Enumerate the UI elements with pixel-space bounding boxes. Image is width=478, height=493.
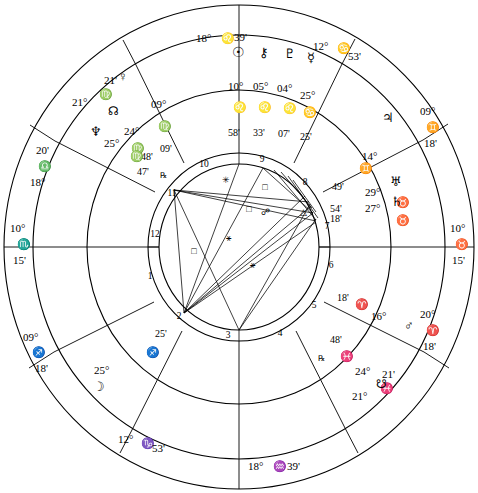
svg-text:♎: ♎ xyxy=(38,160,52,173)
svg-text:05°: 05° xyxy=(253,80,268,92)
svg-text:♍: ♍ xyxy=(130,150,144,163)
svg-text:♐: ♐ xyxy=(32,346,46,359)
svg-text:♊: ♊ xyxy=(426,121,440,134)
svg-text:18': 18' xyxy=(423,340,436,352)
svg-text:10°: 10° xyxy=(10,222,25,234)
svg-text:25°: 25° xyxy=(104,137,119,149)
house-number-11: 11 xyxy=(167,188,176,198)
house-number-4: 4 xyxy=(278,328,283,338)
house-number-3: 3 xyxy=(226,330,231,340)
svg-text:□: □ xyxy=(246,204,252,214)
svg-text:18': 18' xyxy=(35,362,48,374)
svg-text:49': 49' xyxy=(332,181,344,192)
planet-south-node: ☋ 24° ♓ 48' xyxy=(330,334,387,391)
svg-text:21': 21' xyxy=(104,74,117,86)
svg-text:24°: 24° xyxy=(124,125,139,137)
svg-text:21°: 21° xyxy=(72,96,87,108)
planet-moon: ☽ 25° ♐ 25' xyxy=(93,328,167,394)
svg-text:18°: 18° xyxy=(30,176,45,188)
svg-text:25': 25' xyxy=(155,328,167,339)
svg-text:04°: 04° xyxy=(277,82,292,94)
svg-text:09°: 09° xyxy=(151,98,166,110)
planet-chiron: ⚷ 05° ♌ 33' xyxy=(253,45,272,138)
cusp-label-mc: 18° ♌ 39' xyxy=(196,31,247,45)
cusp-label-ic: 18° ♒ 39' xyxy=(248,460,300,473)
svg-text:♌: ♌ xyxy=(233,101,247,114)
svg-text:℞: ℞ xyxy=(160,171,167,180)
svg-text:♉: ♉ xyxy=(396,214,410,227)
planet-mercury: ☿ 25° ♋ 25' xyxy=(300,50,317,142)
house-number-6: 6 xyxy=(329,260,334,270)
planet-mars: ♂ 16° ♈ 18' xyxy=(337,292,414,333)
svg-text:20': 20' xyxy=(36,144,49,156)
svg-text:53': 53' xyxy=(152,442,165,454)
cusp-label-asc: 10° ♏ 15' xyxy=(10,222,31,266)
svg-text:20°: 20° xyxy=(420,308,435,320)
planet-sun: ☉ 10° ♌ 58' xyxy=(228,45,247,138)
venus-icon: ♀ xyxy=(118,69,128,84)
house-number-2: 2 xyxy=(177,311,182,321)
svg-text:♌: ♌ xyxy=(283,102,297,115)
svg-text:10°: 10° xyxy=(228,80,243,92)
cusp-label-12: 09° ♊ 18' xyxy=(420,105,440,149)
retrograde-marks: ℞ ℞ xyxy=(160,171,325,363)
planet-jupiter: ♃ 14° ♊ 49' xyxy=(332,110,394,192)
svg-text:12°: 12° xyxy=(313,40,328,52)
sun-icon: ☉ xyxy=(232,45,245,60)
neptune-icon: ♆ xyxy=(90,124,102,139)
south-node-icon: ☋ xyxy=(376,377,387,391)
chart-svg: 1 2 3 4 5 6 7 8 9 10 11 12 18° ♌ 39' 18°… xyxy=(0,0,478,493)
cusp-label-5: 12° ♑ 53' xyxy=(118,433,165,454)
svg-text:□: □ xyxy=(262,182,268,192)
svg-text:♌: ♌ xyxy=(258,101,272,114)
cusp-spokes xyxy=(33,35,445,459)
mars-icon: ♂ xyxy=(404,318,414,333)
svg-text:39': 39' xyxy=(234,31,247,43)
svg-text:18°: 18° xyxy=(248,460,263,472)
svg-text:25': 25' xyxy=(300,131,312,142)
planet-labels: ☉ 10° ♌ 58' ⚷ 05° ♌ 33' ♇ 04° ♌ 07' ☿ 25… xyxy=(90,45,414,394)
svg-text:♓: ♓ xyxy=(340,350,354,363)
svg-text:♋: ♋ xyxy=(303,106,317,119)
cusp-label-3: 20° ♈ 18' xyxy=(420,308,440,352)
svg-text:☍: ☍ xyxy=(261,207,270,217)
svg-text:12°: 12° xyxy=(118,433,133,445)
house-number-12: 12 xyxy=(150,229,160,239)
svg-text:18°: 18° xyxy=(196,32,211,44)
svg-text:16°: 16° xyxy=(371,310,386,322)
svg-text:♏: ♏ xyxy=(17,238,31,251)
svg-text:47': 47' xyxy=(137,166,149,177)
svg-text:♒: ♒ xyxy=(273,460,287,473)
svg-text:29°: 29° xyxy=(365,186,380,198)
svg-text:18': 18' xyxy=(337,292,349,303)
cusp-label-8: 18° ♎ 20' xyxy=(30,144,52,188)
svg-text:15': 15' xyxy=(13,254,26,266)
house-number-labels: 1 2 3 4 5 6 7 8 9 10 11 12 xyxy=(148,154,334,340)
svg-text:48': 48' xyxy=(330,334,342,345)
house-number-9: 9 xyxy=(260,154,265,164)
cusp-degree-labels: 18° ♌ 39' 18° ♒ 39' 10° ♏ 15' 10° ♉ 15' … xyxy=(10,31,469,473)
house-number-7: 7 xyxy=(325,221,330,231)
svg-text:07': 07' xyxy=(278,128,290,139)
svg-text:⚹: ⚹ xyxy=(226,233,232,243)
svg-text:09°: 09° xyxy=(420,105,435,117)
astrology-chart-wheel: 1 2 3 4 5 6 7 8 9 10 11 12 18° ♌ 39' 18°… xyxy=(0,0,478,493)
chiron-icon: ⚷ xyxy=(259,45,269,60)
svg-text:39': 39' xyxy=(287,460,300,472)
svg-text:♐: ♐ xyxy=(146,346,160,359)
mercury-icon: ☿ xyxy=(307,50,315,65)
svg-text:14°: 14° xyxy=(362,150,377,162)
svg-text:25°: 25° xyxy=(300,89,315,101)
svg-text:℞: ℞ xyxy=(318,354,325,363)
house-number-1: 1 xyxy=(148,271,153,281)
svg-text:09°: 09° xyxy=(23,331,38,343)
house-number-8: 8 xyxy=(303,177,308,187)
svg-text:18': 18' xyxy=(424,137,437,149)
planet-pluto: ♇ 04° ♌ 07' xyxy=(277,46,297,139)
svg-text:15': 15' xyxy=(452,254,465,266)
svg-text:♍: ♍ xyxy=(99,88,113,101)
svg-text:♊: ♊ xyxy=(359,162,373,175)
aspect-symbols: ✳ □ □ △ □ ⚹ ⚹ ☍ xyxy=(191,175,306,270)
svg-text:△: △ xyxy=(300,207,307,217)
svg-text:✳: ✳ xyxy=(222,175,230,185)
